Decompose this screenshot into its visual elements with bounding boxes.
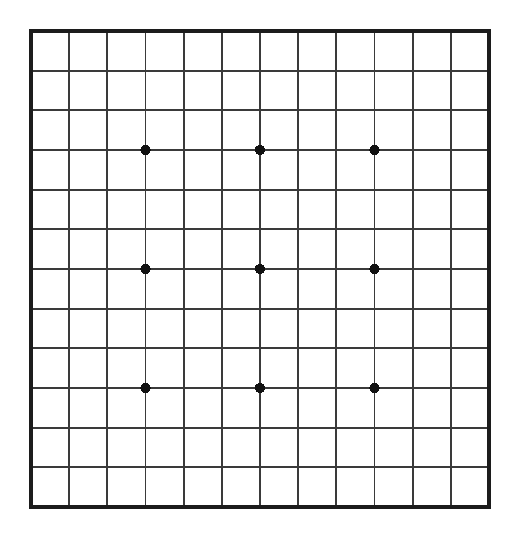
lattice-point-dot xyxy=(140,383,150,393)
grid-figure: Square grid with nine marked lattice poi… xyxy=(0,0,520,542)
lattice-point-dot xyxy=(369,145,379,155)
lattice-point-dot xyxy=(255,383,265,393)
lattice-point-dot xyxy=(140,264,150,274)
lattice-point-dot xyxy=(369,264,379,274)
figure-canvas: Square grid with nine marked lattice poi… xyxy=(0,0,520,542)
lattice-point-dot xyxy=(255,145,265,155)
lattice-point-dot xyxy=(140,145,150,155)
lattice-point-dot xyxy=(255,264,265,274)
lattice-point-dot xyxy=(369,383,379,393)
